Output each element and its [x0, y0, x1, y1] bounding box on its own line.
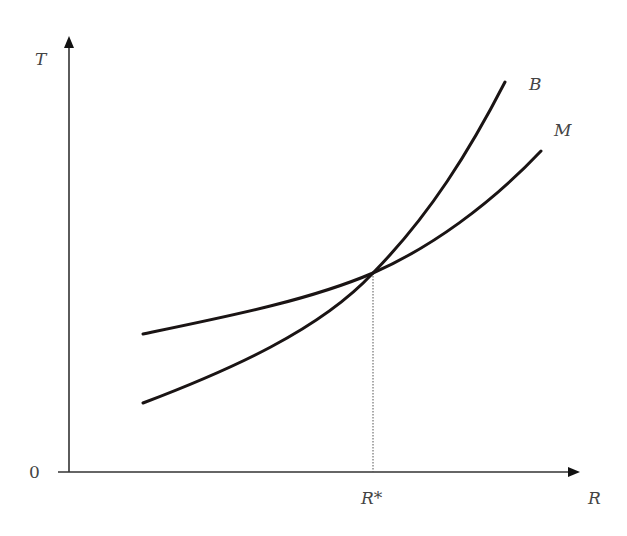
origin-label: 0 [29, 464, 40, 481]
x-axis-arrow-icon [568, 467, 580, 477]
equilibrium-label: R* [361, 490, 382, 507]
y-axis-arrow-icon [64, 36, 74, 48]
y-axis-label: T [35, 51, 46, 68]
curve-b [143, 82, 505, 403]
x-axis-label: R [588, 490, 601, 507]
curve-b-label: B [529, 76, 542, 93]
curve-m-label: M [554, 122, 571, 139]
curve-m [143, 151, 541, 334]
